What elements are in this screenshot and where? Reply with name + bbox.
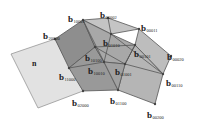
label-subscript: 01010 xyxy=(109,43,120,48)
label-base: b xyxy=(72,98,77,108)
label-b00101: b00101 xyxy=(134,44,151,60)
label-base: b xyxy=(88,66,93,76)
label-base: b xyxy=(110,96,115,106)
label-b11000: b11000 xyxy=(59,67,76,83)
label-subscript: 10010 xyxy=(94,71,105,76)
label-subscript: 00020 xyxy=(173,57,184,62)
label-b10001: b10001 xyxy=(68,9,85,25)
label-base: b xyxy=(115,67,120,77)
label-b00020: b00020 xyxy=(167,47,184,63)
label-base: b xyxy=(166,78,171,88)
label-subscript: 00110 xyxy=(172,83,183,88)
label-b00110: b00110 xyxy=(166,73,183,89)
label-subscript: 00200 xyxy=(153,115,164,120)
label-b00002: b00002 xyxy=(100,5,117,21)
label-b02000: b02000 xyxy=(72,93,89,109)
label-b20000: b20000 xyxy=(43,26,60,42)
label-b01001: b01001 xyxy=(115,62,132,78)
label-base: b xyxy=(167,52,172,62)
label-base: b xyxy=(147,110,152,120)
normal-plane-label: n xyxy=(32,60,36,68)
label-subscript: 00011 xyxy=(147,28,158,33)
label-subscript: 11000 xyxy=(65,77,76,82)
label-base: b xyxy=(59,72,64,82)
label-base: b xyxy=(141,23,146,33)
label-base: b xyxy=(100,10,105,20)
label-subscript: 01001 xyxy=(121,72,132,77)
label-base: b xyxy=(103,38,108,48)
label-subscript: 20000 xyxy=(49,36,60,41)
label-base: b xyxy=(134,49,139,59)
label-b01100: b01100 xyxy=(110,91,127,107)
label-b00011: b00011 xyxy=(141,18,158,34)
label-b10010: b10010 xyxy=(88,61,105,77)
bezier-diagram: n b10001 b00002 b00011 b20000 b01010 b00… xyxy=(0,0,200,122)
label-b00200: b00200 xyxy=(147,105,164,121)
label-base: b xyxy=(68,14,73,24)
label-subscript: 01100 xyxy=(116,101,127,106)
label-subscript: 02000 xyxy=(78,103,89,108)
label-b01010: b01010 xyxy=(103,33,120,49)
label-subscript: 00101 xyxy=(140,54,151,59)
label-subscript: 10001 xyxy=(74,19,85,24)
label-base: b xyxy=(43,31,48,41)
label-subscript: 00002 xyxy=(106,15,117,20)
